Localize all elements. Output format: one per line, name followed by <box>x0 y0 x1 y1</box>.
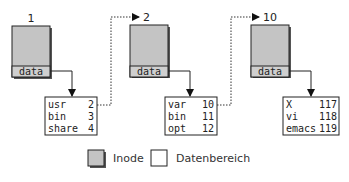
entry-name: bin <box>48 111 66 122</box>
legend-data-area-label: Datenbereich <box>176 152 250 165</box>
data-field-label: data <box>137 66 161 77</box>
data-block-1: usr 2 bin 3 share 4 <box>45 97 97 135</box>
entry-name: share <box>48 123 78 134</box>
entry-inode: 118 <box>319 111 337 122</box>
entry-name: emacs <box>286 123 316 134</box>
legend-data-area-swatch <box>151 150 167 166</box>
entry-name: usr <box>48 99 66 110</box>
inode-1: 1 data <box>12 12 52 79</box>
entry-inode: 3 <box>88 111 94 122</box>
data-pointer-arrow <box>50 71 72 96</box>
inode-2: 2 data <box>130 11 170 78</box>
data-block-2: var 10 bin 11 opt 12 <box>165 97 217 135</box>
data-field-label: data <box>19 66 43 77</box>
legend-inode-swatch <box>88 150 104 166</box>
entry-inode: 117 <box>319 99 337 110</box>
inode-number: 1 <box>28 12 35 25</box>
entry-name: vi <box>286 111 298 122</box>
data-pointer-arrow <box>289 71 311 96</box>
entry-inode: 4 <box>88 123 94 134</box>
legend: Inode Datenbereich <box>88 150 250 168</box>
data-block-3: X 117 vi 118 emacs 119 <box>283 97 339 135</box>
entry-inode: 10 <box>202 99 214 110</box>
data-field-label: data <box>258 66 282 77</box>
legend-inode-label: Inode <box>113 152 144 165</box>
entry-inode: 12 <box>202 123 214 134</box>
entry-name: bin <box>168 111 186 122</box>
entry-inode: 119 <box>319 123 337 134</box>
inode-number: 10 <box>263 11 277 24</box>
data-pointer-arrow <box>168 71 190 96</box>
entry-inode: 2 <box>88 99 94 110</box>
inode-diagram: 1 data usr 2 bin 3 share 4 2 data var 10… <box>0 0 349 182</box>
entry-name: X <box>286 99 292 110</box>
inode-number: 2 <box>143 11 150 24</box>
entry-name: opt <box>168 123 186 134</box>
entry-name: var <box>168 99 186 110</box>
entry-inode: 11 <box>202 111 214 122</box>
inode-10: 10 data <box>251 11 291 78</box>
